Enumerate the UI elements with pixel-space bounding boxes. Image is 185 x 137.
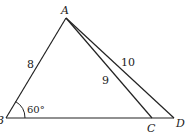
angle-arc-b [16,102,26,119]
length-label-ac: 9 [102,74,109,87]
segment-ab [6,18,66,118]
length-label-ab: 8 [27,58,34,71]
segment-ac [66,18,152,118]
diagram-canvas: A B C D 8 9 10 60° [0,0,185,137]
segment-ad [66,18,174,118]
vertex-label-a: A [60,4,69,17]
angle-label-b: 60° [27,104,45,115]
vertex-label-c: C [147,122,156,135]
triangle-diagram: A B C D 8 9 10 60° [0,0,185,137]
vertex-label-d: D [175,117,185,130]
vertex-label-b: B [0,114,4,127]
length-label-ad: 10 [121,56,135,69]
